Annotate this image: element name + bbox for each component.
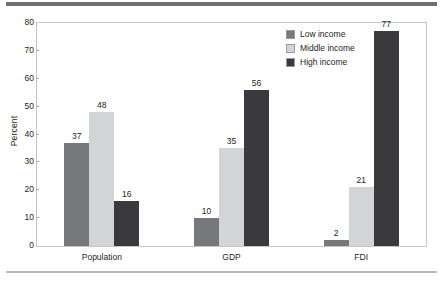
bar[interactable] bbox=[64, 143, 89, 246]
y-axis-tick-label: 10 bbox=[12, 213, 34, 222]
bar[interactable] bbox=[349, 187, 374, 246]
legend-swatch-icon bbox=[286, 58, 295, 67]
bar[interactable] bbox=[219, 148, 244, 246]
y-axis-tick-label: 40 bbox=[12, 129, 34, 138]
legend-swatch-icon bbox=[286, 30, 295, 39]
bar-group: 103556 bbox=[194, 23, 269, 246]
legend-item-label: High income bbox=[300, 58, 347, 67]
bar-value-label: 35 bbox=[219, 137, 244, 146]
bar[interactable] bbox=[374, 31, 399, 246]
y-axis-tick-label: 60 bbox=[12, 74, 34, 83]
y-axis-tick-mark bbox=[36, 134, 39, 135]
y-axis-tick-mark bbox=[36, 217, 39, 218]
y-axis-tick-label: 0 bbox=[12, 241, 34, 250]
bar-chart-figure: Percent 01020304050607080 37481610355622… bbox=[0, 6, 443, 270]
y-axis-tick-labels: 01020304050607080 bbox=[12, 22, 34, 247]
bar-value-label: 21 bbox=[349, 176, 374, 185]
bar[interactable] bbox=[194, 218, 219, 246]
bar-group: 374816 bbox=[64, 23, 139, 246]
y-axis-tick-label: 50 bbox=[12, 101, 34, 110]
legend-item[interactable]: High income bbox=[286, 56, 355, 68]
bar[interactable] bbox=[324, 240, 349, 246]
bar[interactable] bbox=[114, 201, 139, 246]
y-axis-tick-mark bbox=[36, 78, 39, 79]
bottom-divider-rule bbox=[6, 271, 437, 273]
x-axis-category-labels: PopulationGDPFDI bbox=[37, 252, 426, 268]
x-axis-category-label: Population bbox=[82, 252, 122, 262]
y-axis-tick-mark bbox=[36, 50, 39, 51]
y-axis-tick-label: 80 bbox=[12, 18, 34, 27]
y-axis-tick-label: 30 bbox=[12, 157, 34, 166]
x-axis-category-label: FDI bbox=[354, 252, 368, 262]
legend-item[interactable]: Low income bbox=[286, 28, 355, 40]
y-axis-tick-mark bbox=[36, 161, 39, 162]
x-axis-category-label: GDP bbox=[222, 252, 240, 262]
bar-value-label: 16 bbox=[114, 190, 139, 199]
y-axis-tick-mark bbox=[36, 106, 39, 107]
bar-value-label: 56 bbox=[244, 79, 269, 88]
bar-value-label: 48 bbox=[89, 101, 114, 110]
legend-item-label: Middle income bbox=[300, 44, 355, 53]
y-axis-tick-label: 20 bbox=[12, 185, 34, 194]
legend-item[interactable]: Middle income bbox=[286, 42, 355, 54]
chart-legend: Low incomeMiddle incomeHigh income bbox=[286, 28, 355, 68]
bar[interactable] bbox=[244, 90, 269, 246]
bar-value-label: 77 bbox=[374, 20, 399, 29]
bar-value-label: 2 bbox=[324, 229, 349, 238]
y-axis-tick-label: 70 bbox=[12, 46, 34, 55]
legend-item-label: Low income bbox=[300, 30, 345, 39]
y-axis-tick-mark bbox=[36, 189, 39, 190]
bar-value-label: 37 bbox=[64, 132, 89, 141]
bar-value-label: 10 bbox=[194, 207, 219, 216]
bar[interactable] bbox=[89, 112, 114, 246]
bars-layer: 37481610355622177 bbox=[37, 23, 426, 246]
legend-swatch-icon bbox=[286, 44, 295, 53]
